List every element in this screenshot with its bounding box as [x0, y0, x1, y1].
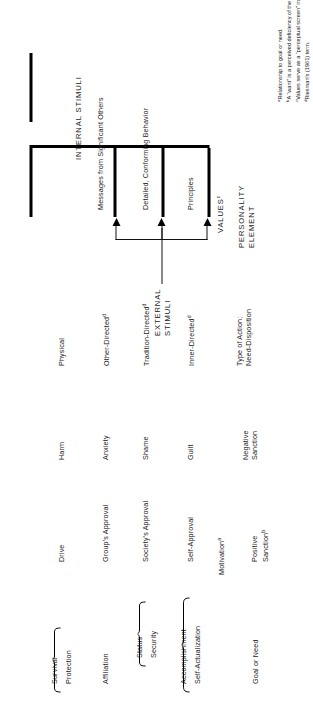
footnote-c: cValues serve as a “perceptual screen” i… — [293, 0, 302, 102]
type-of-action-row-3-superscript: d — [100, 314, 106, 317]
band-label-values-superscript: c — [214, 195, 220, 199]
brace-row-1 — [176, 597, 185, 693]
goal-self-actualization: Self-Actualization — [192, 626, 201, 684]
type-of-action-row-3: Other-Directedd — [100, 314, 110, 366]
band-separator-3 — [113, 148, 116, 217]
band-right-edge-rule — [29, 146, 209, 149]
footnote-a-text: Relationship to goal or need. — [277, 28, 283, 99]
column-header-positive-sanction-superscript: b — [259, 530, 265, 533]
column-header-motivation: Motivationa — [215, 538, 225, 575]
negative-sanction-row-2: Shame — [140, 436, 149, 460]
type-of-action-row-1-superscript: d — [185, 315, 191, 318]
brace-row-2 — [132, 601, 141, 667]
type-of-action-row-3-text: Other-Directed — [101, 317, 110, 366]
footnote-c-mark: c — [293, 100, 298, 102]
negative-sanction-row-4: Harm — [56, 442, 65, 460]
internal-stimuli-rule — [29, 53, 32, 122]
band-header-personality-element: PERSONALITY ELEMENT — [236, 185, 256, 248]
band-label-values-text: VALUES — [216, 198, 225, 233]
brace-row-4 — [47, 627, 56, 693]
footnote-b: bA “want” is a perceived deficiency of t… — [284, 0, 293, 102]
band-separator-1 — [207, 148, 210, 217]
type-of-action-row-1: Inner-Directedd — [185, 315, 195, 366]
external-stimuli-arrowhead-1 — [203, 218, 211, 226]
column-header-motivation-superscript: a — [215, 538, 221, 541]
external-stimuli-feeder-1 — [206, 226, 207, 240]
personality-element-row-1: Principles — [185, 177, 194, 210]
footnote-a: aRelationship to goal or need. — [275, 28, 284, 102]
goal-affiliation: Affiliation — [100, 653, 109, 684]
internal-stimuli-label: INTERNAL STIMULI — [73, 76, 82, 160]
band-separator-2 — [161, 148, 164, 217]
personality-element-row-2: Detailed, Conforming Behavior — [140, 108, 149, 210]
footnote-c-text: Values serve as a “perceptual screen” in… — [295, 0, 301, 100]
goal-protection: Protection — [63, 650, 72, 684]
column-header-negative-sanction: Negative Sanction — [240, 430, 259, 460]
positive-sanction-row-3: Group's Approval — [100, 505, 109, 562]
band-label-values: VALUESc — [214, 195, 225, 233]
external-stimuli-arrowhead-3 — [112, 218, 120, 226]
column-header-positive-sanction-text: Positive Sanction — [249, 533, 269, 562]
type-of-action-row-4: Physical — [56, 338, 65, 366]
type-of-action-row-2-text: Tradition-Directed — [141, 306, 150, 366]
column-header-type-of-action: Type of Action; Need-Disposition — [234, 309, 253, 366]
figure-canvas: Goal or Need Motivationa Positive Sancti… — [0, 0, 313, 714]
column-header-goal-or-need: Goal or Need — [250, 639, 259, 684]
type-of-action-row-2-superscript: d — [140, 303, 146, 306]
external-stimuli-feeder-3 — [115, 226, 116, 240]
personality-element-row-3: Messages from Significant Others — [95, 97, 104, 210]
column-header-positive-sanction: Positive Sanctionb — [240, 530, 269, 562]
external-stimuli-label: EXTERNAL STIMULI — [152, 289, 172, 336]
negative-sanction-row-3: Anxiety — [100, 435, 109, 460]
type-of-action-row-2: Tradition-Directedd — [140, 303, 150, 366]
positive-sanction-row-2: Society's Approval — [140, 501, 149, 562]
type-of-action-row-1-text: Inner-Directed — [186, 318, 195, 366]
positive-sanction-row-4: Drive — [56, 544, 65, 562]
goal-security: Security — [148, 631, 157, 658]
external-stimuli-feeder-2 — [161, 226, 162, 240]
footnote-d: dRiesman's (1961) term. — [302, 42, 311, 102]
column-header-motivation-text: Motivation — [216, 541, 225, 575]
positive-sanction-row-1: Self-Approval — [185, 517, 194, 562]
external-stimuli-arrowhead-2 — [157, 218, 165, 226]
band-separator-4 — [29, 148, 32, 217]
external-stimuli-tail — [161, 240, 162, 284]
negative-sanction-row-1: Guilt — [185, 444, 194, 460]
footnote-b-text: A “want” is a perceived deficiency of th… — [286, 0, 292, 100]
footnote-d-text: Riesman's (1961) term. — [304, 42, 310, 100]
